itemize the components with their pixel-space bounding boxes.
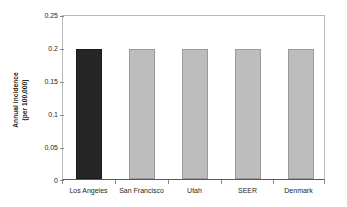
x-label-seer: SEER bbox=[221, 186, 274, 195]
y-axis-title-line-2: (per 100,000) bbox=[21, 44, 30, 156]
y-tick-label-005: 0.05 bbox=[32, 144, 58, 151]
bar-chart-figure: Annual incidence (per 100,000) 0.25 0.2 … bbox=[0, 0, 347, 207]
y-tick-label-025: 0.25 bbox=[32, 12, 58, 19]
plot-area bbox=[62, 15, 325, 180]
y-axis-tick-labels: 0.25 0.2 0.15 0.1 0.05 0 bbox=[30, 0, 58, 207]
x-tick-mark-0 bbox=[62, 180, 63, 184]
x-label-denmark: Denmark bbox=[272, 186, 325, 195]
bar-seer[interactable] bbox=[235, 49, 261, 179]
x-tick-mark-3 bbox=[221, 180, 222, 184]
y-tick-label-01: 0.1 bbox=[32, 111, 58, 118]
y-axis-title-line-1: Annual incidence bbox=[12, 44, 21, 156]
bar-series bbox=[63, 16, 324, 179]
bar-los-angeles[interactable] bbox=[76, 49, 102, 179]
x-tick-mark-1 bbox=[115, 180, 116, 184]
bar-san-francisco[interactable] bbox=[129, 49, 155, 179]
x-label-san-francisco: San Francisco bbox=[115, 186, 168, 195]
x-tick-mark-5 bbox=[324, 180, 325, 184]
x-tick-mark-4 bbox=[273, 180, 274, 184]
x-label-utah: Utah bbox=[168, 186, 221, 195]
y-tick-label-02: 0.2 bbox=[32, 45, 58, 52]
y-tick-label-0: 0 bbox=[32, 177, 58, 184]
bar-denmark[interactable] bbox=[288, 49, 314, 179]
x-tick-mark-2 bbox=[168, 180, 169, 184]
x-label-los-angeles: Los Angeles bbox=[62, 186, 115, 195]
y-tick-label-015: 0.15 bbox=[32, 78, 58, 85]
bar-utah[interactable] bbox=[182, 49, 208, 179]
